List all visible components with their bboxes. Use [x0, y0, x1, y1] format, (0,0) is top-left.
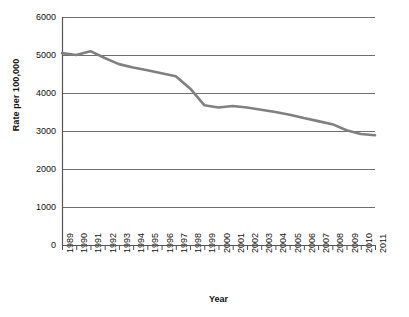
line-chart-figure: Rate per 100,000 Year 010002000300040005…	[0, 0, 409, 317]
plot-area	[0, 0, 409, 317]
gridlines	[62, 18, 375, 208]
